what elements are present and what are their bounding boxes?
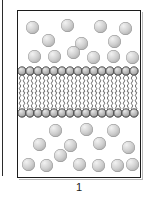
upper-compartment	[18, 11, 140, 66]
lipid-head	[114, 109, 122, 117]
solute-particle	[93, 137, 106, 150]
lipid-head	[114, 67, 122, 75]
lipid-head	[130, 67, 138, 75]
lipid-head	[82, 109, 90, 117]
cell-box-shadow-right	[142, 12, 143, 179]
lipid-head	[26, 109, 34, 117]
membrane-figure: 1	[0, 0, 149, 206]
solute-particle	[92, 159, 105, 172]
cell-box-shadow-bottom	[19, 179, 143, 180]
solute-particle	[73, 158, 86, 171]
solute-particle	[107, 50, 120, 63]
lipid-head	[98, 109, 106, 117]
solute-particle	[64, 139, 77, 152]
lipid-head	[50, 109, 58, 117]
lipid-head	[82, 67, 90, 75]
figure-caption: 1	[17, 181, 141, 194]
solute-particle	[61, 19, 74, 32]
lipid-head	[34, 109, 42, 117]
solute-particle	[107, 124, 120, 137]
lipid-head	[50, 67, 58, 75]
solute-particle	[94, 20, 107, 33]
lipid-head	[18, 67, 26, 75]
lipid-head	[66, 109, 74, 117]
solute-particle	[42, 34, 55, 47]
lipid-head	[90, 109, 98, 117]
lipid-head	[74, 109, 82, 117]
solute-particle	[26, 21, 39, 34]
solute-particle	[126, 158, 139, 171]
lower-compartment	[18, 118, 140, 177]
lipid-head	[106, 109, 114, 117]
lipid-head	[26, 67, 34, 75]
solute-particle	[22, 158, 35, 171]
lipid-head	[58, 109, 66, 117]
solute-particle	[122, 141, 135, 154]
solute-particle	[49, 124, 62, 137]
lipid-head	[106, 67, 114, 75]
lipid-head	[42, 67, 50, 75]
solute-particle	[40, 159, 53, 172]
lipid-head	[90, 67, 98, 75]
solute-particle	[108, 35, 121, 48]
lipid-head	[42, 109, 50, 117]
lipid-head	[18, 109, 26, 117]
lipid-head	[122, 67, 130, 75]
lipid-head	[66, 67, 74, 75]
solute-particle	[54, 149, 67, 162]
solute-particle	[126, 51, 139, 64]
lipid-head	[58, 67, 66, 75]
solute-particle	[33, 138, 46, 151]
cell-box	[17, 10, 141, 178]
lipid-head	[74, 67, 82, 75]
solute-particle	[48, 50, 61, 63]
lipid-head	[122, 109, 130, 117]
phospholipid-bilayer	[18, 66, 140, 118]
solute-particle	[119, 22, 132, 35]
solute-particle	[111, 159, 124, 172]
bilayer-svg	[18, 66, 140, 118]
solute-particle	[87, 51, 100, 64]
solute-particle	[67, 46, 80, 59]
lipid-head	[98, 67, 106, 75]
solute-particle	[28, 50, 41, 63]
lipid-head	[34, 67, 42, 75]
page-edge-rule	[2, 0, 3, 176]
solute-particle	[80, 123, 93, 136]
lipid-head	[130, 109, 138, 117]
